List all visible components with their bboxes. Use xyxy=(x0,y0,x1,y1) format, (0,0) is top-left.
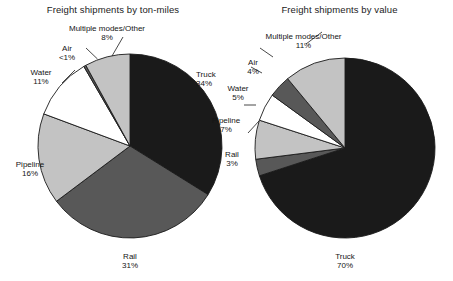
pie-label-pipeline-name: Pipeline xyxy=(204,116,248,125)
pie-label-rail: Rail 3% xyxy=(214,150,250,169)
pie-label-water-name: Water xyxy=(220,84,256,93)
pie-label-truck: Truck 70% xyxy=(323,252,367,271)
pie-label-pipeline: Pipeline 16% xyxy=(8,160,52,179)
pie-label-other: Multiple modes/Other 11% xyxy=(231,32,376,51)
pie-label-air-name: Air xyxy=(50,44,84,53)
pie-label-air: Air 4% xyxy=(238,58,268,77)
pie-label-water: Water 11% xyxy=(22,68,60,87)
pie-label-pipeline-name: Pipeline xyxy=(8,160,52,169)
chart-panel-ton-miles: Freight shipments by ton-miles Multipl xyxy=(0,0,226,281)
pie-label-water: Water 5% xyxy=(220,84,256,103)
pie-label-pipeline: Pipeline 7% xyxy=(204,116,248,135)
pie-label-rail: Rail 31% xyxy=(108,252,152,271)
pie-label-other-name: Multiple modes/Other xyxy=(231,32,376,41)
pie-label-rail-name: Rail xyxy=(108,252,152,261)
pie-label-air-value: <1% xyxy=(50,53,84,62)
pie-label-air-name: Air xyxy=(238,58,268,67)
pie-label-rail-value: 3% xyxy=(214,159,250,168)
pie-label-truck-name: Truck xyxy=(323,252,367,261)
pie-label-pipeline-value: 16% xyxy=(8,169,52,178)
pie-label-other-name: Multiple modes/Other xyxy=(32,24,182,33)
pie-label-other: Multiple modes/Other 8% xyxy=(32,24,182,43)
pie-label-water-value: 11% xyxy=(22,77,60,86)
pie-label-pipeline-value: 7% xyxy=(204,125,248,134)
pie-label-water-value: 5% xyxy=(220,93,256,102)
pie-label-other-value: 8% xyxy=(32,33,182,42)
leader-line-air xyxy=(86,48,98,59)
pie-label-air: Air <1% xyxy=(50,44,84,63)
pie-label-water-name: Water xyxy=(22,68,60,77)
pie-label-rail-name: Rail xyxy=(214,150,250,159)
pie-label-air-value: 4% xyxy=(238,67,268,76)
pie-label-truck-value: 70% xyxy=(323,261,367,270)
pie-label-other-value: 11% xyxy=(231,41,376,50)
freight-shipments-figure: Freight shipments by ton-miles Multipl xyxy=(0,0,453,281)
chart-panel-value: Freight shipments by value Multiple mode… xyxy=(226,0,453,281)
pie-label-rail-value: 31% xyxy=(108,261,152,270)
